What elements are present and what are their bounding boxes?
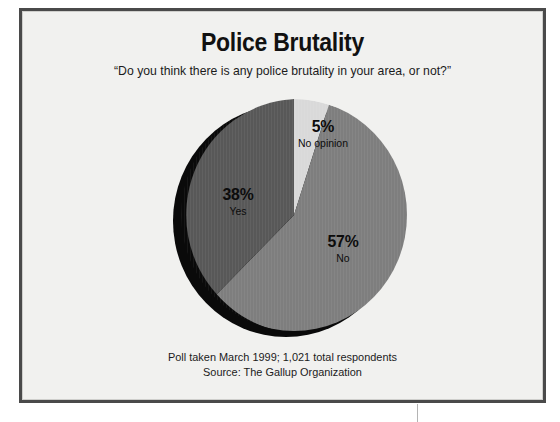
chart-panel: Police Brutality “Do you think there is … [19, 8, 546, 403]
pie-label-no-opinion: 5% No opinion [280, 117, 366, 149]
pie-label-no-opinion-name: No opinion [282, 137, 364, 149]
pie-label-yes-value: 38% [198, 185, 278, 204]
panel-tail-rule [417, 404, 418, 422]
pie-label-no: 57% No [303, 232, 383, 264]
chart-subtitle: “Do you think there is any police brutal… [39, 63, 527, 78]
pie-chart: 5% No opinion 38% Yes 57% No [173, 99, 417, 343]
chart-source-line-1: Poll taken March 1999; 1,021 total respo… [36, 350, 529, 366]
pie-label-no-name: No [305, 252, 381, 264]
pie-label-no-opinion-value: 5% [283, 117, 363, 136]
chart-title: Police Brutality [44, 28, 521, 57]
chart-page: Police Brutality “Do you think there is … [0, 0, 560, 422]
pie-label-no-value: 57% [306, 232, 380, 251]
chart-panel-inner: Police Brutality “Do you think there is … [22, 11, 543, 400]
chart-source-note: Poll taken March 1999; 1,021 total respo… [36, 350, 529, 381]
pie-label-yes-name: Yes [197, 205, 279, 217]
chart-source-line-2: Source: The Gallup Organization [36, 365, 529, 381]
pie-label-yes: 38% Yes [195, 185, 281, 217]
